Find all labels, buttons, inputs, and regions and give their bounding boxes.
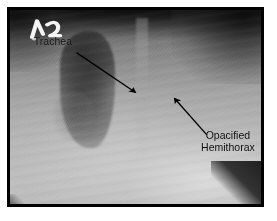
chest-radiograph-image: Trachea Opacified Hemithorax xyxy=(10,10,261,204)
radiograph-border-frame: Trachea Opacified Hemithorax xyxy=(7,7,264,207)
figure-root: Trachea Opacified Hemithorax xyxy=(0,0,277,221)
bottom-right-corner-wedge xyxy=(211,161,261,204)
radiopaque-side-marker-icon xyxy=(26,14,66,45)
bottom-left-corner-nick xyxy=(10,194,25,204)
